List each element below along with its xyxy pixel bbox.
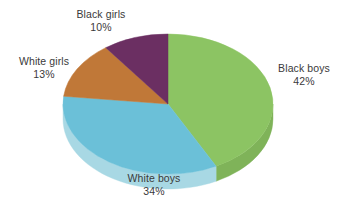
pie-chart-figure: Black girls 10% White girls 13% Black bo… xyxy=(0,0,341,210)
pie-3d-group xyxy=(63,34,273,189)
chart-area: Black girls 10% White girls 13% Black bo… xyxy=(0,0,341,210)
slice-label-white-girls-value: 13% xyxy=(4,68,84,81)
slice-label-black-boys-value: 42% xyxy=(268,75,340,88)
slice-label-black-boys-name: Black boys xyxy=(268,62,340,75)
slice-label-white-boys-value: 34% xyxy=(106,185,202,198)
slice-label-black-girls-value: 10% xyxy=(58,21,144,34)
slice-label-black-girls-name: Black girls xyxy=(58,8,144,21)
slice-label-white-girls-name: White girls xyxy=(4,55,84,68)
slice-label-black-girls: Black girls 10% xyxy=(58,8,144,34)
slice-label-white-boys-name: White boys xyxy=(106,172,202,185)
slice-label-white-girls: White girls 13% xyxy=(4,55,84,81)
slice-label-black-boys: Black boys 42% xyxy=(268,62,340,88)
slice-label-white-boys: White boys 34% xyxy=(106,172,202,198)
